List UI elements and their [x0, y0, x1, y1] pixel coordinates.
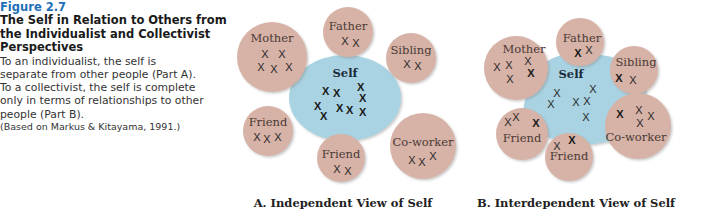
- svg-text:X: X: [408, 154, 416, 166]
- friend-left-circle: [243, 106, 293, 156]
- friend-left-label: Friend: [503, 131, 542, 145]
- svg-text:X: X: [582, 111, 590, 123]
- svg-text:X: X: [359, 92, 367, 104]
- svg-text:X: X: [506, 73, 514, 85]
- father-label: Father: [563, 31, 602, 45]
- svg-text:X: X: [429, 150, 437, 162]
- svg-text:X: X: [532, 117, 540, 129]
- svg-text:X: X: [274, 131, 282, 143]
- svg-text:X: X: [403, 58, 411, 70]
- svg-text:X: X: [333, 87, 341, 99]
- sibling-circle: [386, 33, 436, 83]
- svg-text:X: X: [615, 72, 623, 84]
- part-a-title: A. Independent View of Self: [253, 196, 434, 210]
- sibling-label: Sibling: [615, 55, 657, 69]
- svg-text:X: X: [568, 134, 576, 146]
- svg-text:X: X: [512, 111, 520, 123]
- interdependent-view-diagram: Self X X X X X X Mother X X X X X Father…: [477, 18, 676, 210]
- svg-text:X: X: [270, 63, 278, 75]
- svg-text:X: X: [414, 60, 422, 72]
- svg-text:X: X: [616, 108, 624, 120]
- coworker-label: Co-worker: [605, 130, 667, 144]
- svg-text:X: X: [418, 156, 426, 168]
- svg-text:X: X: [278, 48, 286, 60]
- svg-text:X: X: [504, 116, 512, 128]
- svg-text:X: X: [263, 133, 271, 145]
- svg-text:X: X: [636, 117, 644, 129]
- sibling-label: Sibling: [390, 43, 432, 57]
- self-label: Self: [559, 67, 585, 81]
- svg-text:X: X: [261, 48, 269, 60]
- friend-bottom-label: Friend: [550, 149, 589, 163]
- coworker-label: Co-worker: [392, 135, 454, 149]
- svg-text:X: X: [352, 37, 360, 49]
- svg-text:X: X: [257, 61, 265, 73]
- svg-text:X: X: [253, 131, 261, 143]
- svg-text:X: X: [574, 47, 582, 59]
- svg-text:X: X: [493, 61, 501, 73]
- svg-text:X: X: [585, 44, 593, 56]
- svg-text:X: X: [285, 61, 293, 73]
- diagram-canvas: Self X X X X X X X X X Mother X X X X X …: [0, 0, 710, 213]
- svg-text:X: X: [524, 55, 532, 67]
- svg-text:X: X: [527, 67, 535, 79]
- mother-label: Mother: [502, 42, 546, 56]
- svg-text:X: X: [635, 104, 643, 116]
- father-label: Father: [329, 19, 368, 33]
- svg-text:X: X: [346, 104, 354, 116]
- sibling-circle: [610, 46, 658, 94]
- svg-text:X: X: [629, 74, 637, 86]
- svg-text:X: X: [333, 163, 341, 175]
- svg-text:X: X: [589, 83, 597, 95]
- svg-text:X: X: [547, 98, 555, 110]
- part-b-title: B. Interdependent View of Self: [477, 196, 676, 210]
- svg-text:X: X: [583, 95, 591, 107]
- svg-text:X: X: [647, 110, 655, 122]
- independent-view-diagram: Self X X X X X X X X X Mother X X X X X …: [237, 7, 456, 210]
- friend-left-label: Friend: [249, 115, 288, 129]
- svg-text:X: X: [341, 35, 349, 47]
- svg-text:X: X: [505, 59, 513, 71]
- svg-text:X: X: [336, 102, 344, 114]
- svg-text:X: X: [344, 165, 352, 177]
- friend-bottom-label: Friend: [322, 147, 361, 161]
- self-label: Self: [333, 66, 359, 80]
- svg-text:X: X: [359, 106, 367, 118]
- svg-text:X: X: [322, 85, 330, 97]
- svg-text:X: X: [320, 110, 328, 122]
- mother-label: Mother: [250, 31, 294, 45]
- svg-text:X: X: [572, 96, 580, 108]
